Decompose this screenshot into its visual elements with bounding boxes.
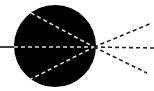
optics-diagram xyxy=(0,0,154,91)
black-sphere xyxy=(14,5,96,87)
outer-dashed-ray-2 xyxy=(94,47,154,48)
